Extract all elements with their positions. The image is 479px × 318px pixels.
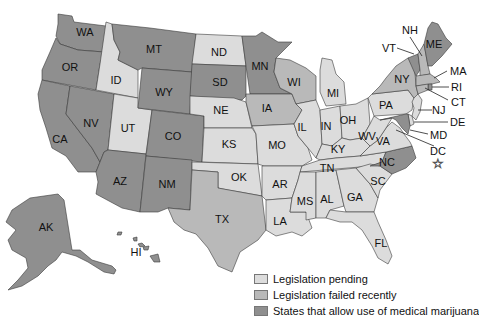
legend-label: Legislation pending [273,273,368,285]
label-FL: FL [375,237,388,249]
label-OH: OH [340,114,357,126]
label-GA: GA [347,191,364,203]
legend-swatch [254,274,268,284]
legend-item-allowed: States that allow use of medical marijua… [254,303,479,318]
label-MS: MS [297,195,314,207]
label-AK: AK [39,221,54,233]
label-SC: SC [370,175,385,187]
label-UT: UT [121,122,136,134]
label-OK: OK [231,171,248,183]
label-VT: VT [382,42,396,54]
legend-label: States that allow use of medical marijua… [273,305,479,317]
leader-CT [425,88,448,100]
label-WY: WY [155,86,173,98]
label-KS: KS [222,138,237,150]
label-AR: AR [272,178,287,190]
label-IL: IL [297,121,306,133]
label-OR: OR [62,61,79,73]
legend: Legislation pending Legislation failed r… [254,271,479,318]
leader-MA [434,71,447,78]
label-RI: RI [451,81,462,93]
leader-MD [410,130,428,134]
label-IA: IA [262,102,273,114]
label-MI: MI [327,87,339,99]
label-WI: WI [287,76,300,88]
label-TN: TN [320,162,335,174]
label-MA: MA [450,65,467,77]
legend-item-pending: Legislation pending [254,271,479,286]
label-TX: TX [215,213,230,225]
label-WV: WV [358,130,376,142]
label-MN: MN [251,60,268,72]
label-HI: HI [131,246,142,258]
label-ND: ND [211,46,227,58]
state-HI-3[interactable] [133,237,137,241]
label-CA: CA [52,133,68,145]
label-ID: ID [111,74,122,86]
label-MD: MD [430,129,447,141]
label-NE: NE [213,104,228,116]
label-NM: NM [158,178,175,190]
label-ME: ME [426,38,443,50]
label-LA: LA [273,215,287,227]
label-MO: MO [268,139,286,151]
state-HI-1[interactable] [150,254,160,262]
label-SD: SD [212,76,227,88]
legend-swatch [254,290,268,300]
label-IN: IN [321,120,332,132]
label-DE: DE [450,116,465,128]
label-VA: VA [376,135,391,147]
dc-star-icon: ☆ [432,156,444,171]
state-HI-4[interactable] [143,246,149,250]
label-NH: NH [402,24,418,36]
state-AK[interactable] [6,194,116,290]
label-KY: KY [331,143,346,155]
label-MT: MT [146,43,162,55]
leader-VT [397,48,414,54]
label-NV: NV [83,117,99,129]
label-CO: CO [165,130,182,142]
legend-label: Legislation failed recently [273,289,397,301]
state-HI-5[interactable] [117,232,122,235]
label-NC: NC [379,156,395,168]
label-WA: WA [76,26,94,38]
legend-item-failed: Legislation failed recently [254,287,479,302]
label-CT: CT [451,96,466,108]
label-AZ: AZ [113,175,127,187]
label-NY: NY [394,73,410,85]
label-AL: AL [320,193,333,205]
label-PA: PA [379,99,394,111]
state-RI[interactable] [428,84,432,90]
legend-swatch [254,306,268,316]
label-NJ: NJ [432,104,445,116]
